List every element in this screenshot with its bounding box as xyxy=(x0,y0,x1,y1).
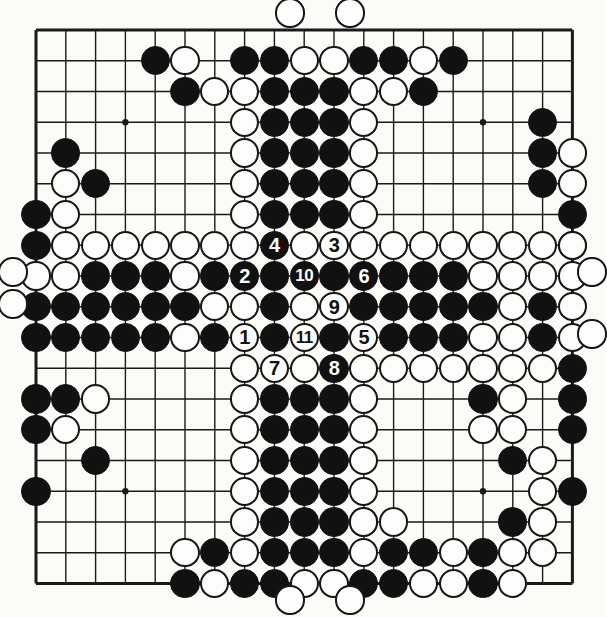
black-stone xyxy=(111,261,140,290)
white-stone xyxy=(349,384,378,413)
white-stone xyxy=(468,261,497,290)
off-board-white-stone xyxy=(0,257,28,286)
black-stone xyxy=(51,138,80,167)
move-stone-1: 1 xyxy=(230,323,259,352)
black-stone xyxy=(558,477,587,506)
white-stone xyxy=(409,231,438,260)
black-stone xyxy=(260,108,289,137)
white-stone xyxy=(468,354,497,383)
white-stone xyxy=(170,538,199,567)
black-stone xyxy=(200,261,229,290)
off-board-white-stone xyxy=(335,0,364,28)
black-stone xyxy=(170,77,199,106)
white-stone xyxy=(349,138,378,167)
black-stone xyxy=(111,323,140,352)
white-stone xyxy=(558,138,587,167)
white-stone xyxy=(439,569,468,598)
black-stone xyxy=(319,77,348,106)
black-stone xyxy=(409,323,438,352)
white-stone xyxy=(290,292,319,321)
black-stone xyxy=(379,261,408,290)
black-stone xyxy=(379,323,408,352)
white-stone xyxy=(230,200,259,229)
off-board-white-stone xyxy=(335,585,364,614)
white-stone xyxy=(528,261,557,290)
white-stone xyxy=(51,261,80,290)
white-stone xyxy=(200,231,229,260)
black-stone xyxy=(290,507,319,536)
white-stone xyxy=(349,354,378,383)
white-stone xyxy=(379,507,408,536)
white-stone xyxy=(170,46,199,75)
black-stone xyxy=(319,261,348,290)
white-stone xyxy=(439,231,468,260)
move-number-label: 2 xyxy=(239,266,250,286)
white-stone xyxy=(349,108,378,137)
black-stone xyxy=(260,200,289,229)
black-stone xyxy=(260,477,289,506)
white-stone xyxy=(230,446,259,475)
black-stone xyxy=(319,477,348,506)
black-stone xyxy=(21,200,50,229)
move-number-label: 6 xyxy=(358,266,369,286)
off-board-white-stone xyxy=(577,319,606,348)
black-stone xyxy=(290,77,319,106)
white-stone xyxy=(349,231,378,260)
white-stone xyxy=(468,323,497,352)
black-stone xyxy=(290,138,319,167)
black-stone xyxy=(319,108,348,137)
white-stone xyxy=(498,231,527,260)
white-stone xyxy=(170,231,199,260)
white-stone xyxy=(528,477,557,506)
black-stone xyxy=(558,354,587,383)
black-stone xyxy=(290,446,319,475)
black-stone xyxy=(230,569,259,598)
move-number-label: 4 xyxy=(269,235,280,255)
black-stone xyxy=(379,569,408,598)
white-stone xyxy=(111,231,140,260)
white-stone xyxy=(379,77,408,106)
white-stone xyxy=(230,507,259,536)
white-stone xyxy=(468,415,497,444)
white-stone xyxy=(170,323,199,352)
black-stone xyxy=(558,200,587,229)
black-stone xyxy=(468,384,497,413)
black-stone xyxy=(319,415,348,444)
move-stone-4: 4 xyxy=(260,231,289,260)
black-stone xyxy=(439,261,468,290)
white-stone xyxy=(528,354,557,383)
white-stone xyxy=(409,354,438,383)
black-stone xyxy=(141,261,170,290)
move-stone-10: 10 xyxy=(290,261,319,290)
black-stone xyxy=(141,323,170,352)
black-stone xyxy=(319,169,348,198)
black-stone xyxy=(319,323,348,352)
off-board-white-stone xyxy=(275,0,304,28)
black-stone xyxy=(260,507,289,536)
black-stone xyxy=(21,323,50,352)
white-stone xyxy=(379,354,408,383)
black-stone xyxy=(170,569,199,598)
white-stone xyxy=(51,231,80,260)
black-stone xyxy=(81,323,110,352)
black-stone xyxy=(319,384,348,413)
white-stone xyxy=(528,507,557,536)
move-number-label: 5 xyxy=(358,327,369,347)
black-stone xyxy=(528,323,557,352)
move-number-label: 3 xyxy=(329,235,340,255)
black-stone xyxy=(21,384,50,413)
black-stone xyxy=(290,538,319,567)
white-stone xyxy=(141,231,170,260)
white-stone xyxy=(230,384,259,413)
black-stone xyxy=(498,507,527,536)
white-stone xyxy=(528,231,557,260)
white-stone xyxy=(290,231,319,260)
white-stone xyxy=(498,384,527,413)
off-board-white-stone xyxy=(0,289,28,318)
white-stone xyxy=(349,507,378,536)
move-number-label: 7 xyxy=(269,358,280,378)
white-stone xyxy=(170,261,199,290)
black-stone xyxy=(260,261,289,290)
white-stone xyxy=(439,354,468,383)
